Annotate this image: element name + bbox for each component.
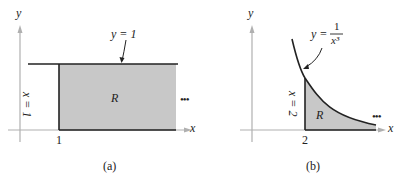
diagram-canvas [0,0,402,185]
caption-a: (a) [103,159,116,174]
arrowhead-icon [120,57,125,63]
y-axis-arrow-icon [18,25,23,33]
vertical-line-label-b: x = 2 [285,91,300,116]
continuation-dots-a: ••• [180,93,189,105]
tick-label-a: 1 [56,133,62,148]
region-label-b: R [316,108,323,123]
curve-label-den-b: x³ [331,34,339,46]
panel-b [240,25,386,142]
vertical-line-label-a: x = 1 [19,92,34,117]
continuation-dots-b: ••• [372,110,381,122]
y-axis-arrow-icon [250,25,255,33]
arrowhead-icon [303,64,309,69]
curve-label-lhs-b: y = [311,27,327,42]
x-axis-label-b: x [388,121,393,136]
panel-a [8,25,192,142]
x-axis-label-a: x [190,121,195,136]
curve-label-num-b: 1 [334,20,340,32]
y-axis-label-a: y [16,6,21,21]
curve-label-a: y = 1 [111,27,136,42]
tick-label-b: 2 [302,133,308,148]
region-label-a: R [111,91,118,106]
x-axis-arrow-icon [378,128,386,133]
y-axis-label-b: y [248,6,253,21]
caption-b: (b) [306,159,320,174]
pointer-arrow-b [306,48,322,67]
